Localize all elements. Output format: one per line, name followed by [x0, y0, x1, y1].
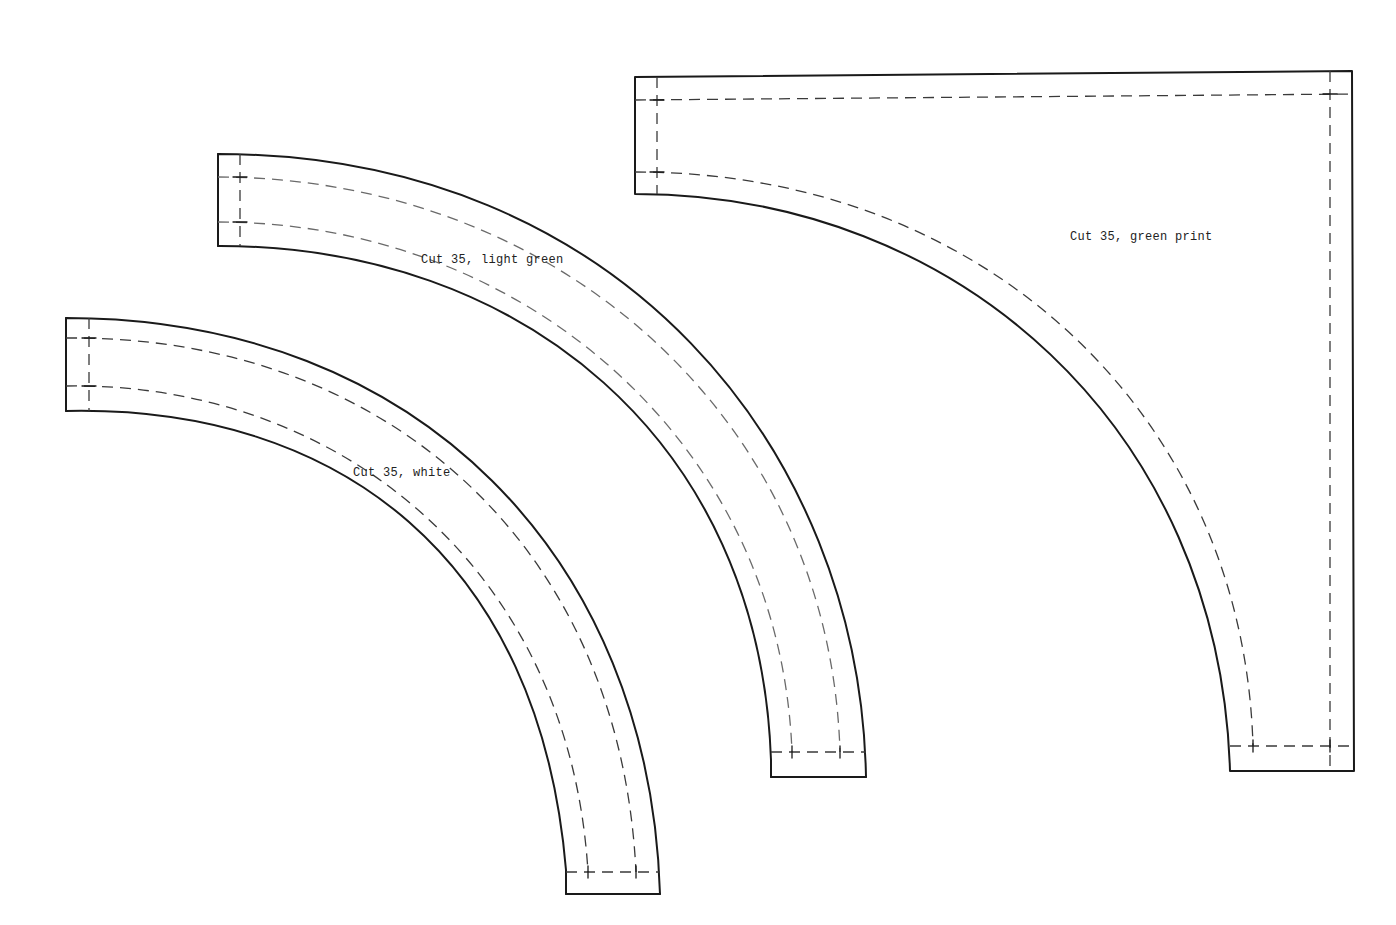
label-green-print: Cut 35, green print [1070, 230, 1213, 244]
piece-green-print [635, 71, 1354, 771]
white-seam-inner [66, 386, 588, 872]
green-print-seam-arc [635, 172, 1253, 746]
pattern-sheet: Cut 35, white Cut 35, light green Cut 35… [0, 0, 1396, 925]
label-light-green: Cut 35, light green [421, 253, 564, 267]
light-green-seam-inner [218, 222, 792, 752]
label-white: Cut 35, white [353, 466, 451, 480]
light-green-cut-outline [218, 154, 866, 777]
white-cut-outline [66, 318, 660, 894]
white-seam-outer [66, 338, 636, 872]
piece-light-green [218, 154, 866, 777]
pattern-drawing [0, 0, 1396, 925]
green-print-seam-crosses [650, 94, 1337, 752]
green-print-seam-top [635, 94, 1352, 100]
green-print-cut-outline [635, 71, 1354, 771]
white-seam-crosses [82, 338, 636, 878]
piece-white [66, 318, 660, 894]
